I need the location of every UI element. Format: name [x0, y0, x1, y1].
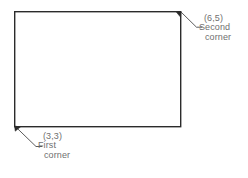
label-second-corner-line2: corner — [199, 33, 231, 42]
label-second-corner: (6,5) Second corner — [199, 14, 231, 42]
label-first-corner: (3,3) First corner — [38, 132, 70, 160]
label-first-corner-line2: corner — [38, 151, 70, 160]
rectangle-shape — [15, 12, 181, 127]
diagram-canvas: (6,5) Second corner (3,3) First corner — [0, 0, 248, 178]
arrowhead-second-corner — [176, 12, 181, 18]
